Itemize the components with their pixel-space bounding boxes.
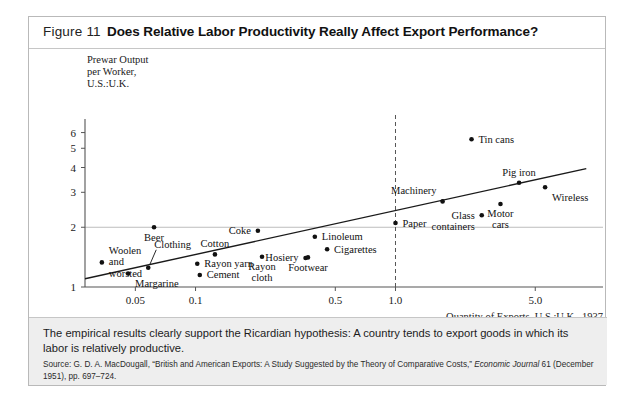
x-tick-label: 0.1 [189, 294, 203, 306]
data-point-label: Glass [451, 210, 474, 221]
trend-line [85, 169, 586, 279]
data-point-label: Tin cans [479, 134, 515, 145]
data-point [146, 265, 151, 270]
data-point [543, 185, 548, 190]
figure-source: Source: G. D. A. MacDougall, “British an… [43, 359, 595, 382]
y-axis-title: per Worker, [87, 66, 136, 77]
data-point-label: cars [492, 219, 509, 230]
figure-caption: The empirical results clearly support th… [43, 326, 591, 356]
data-point-label: Wireless [552, 192, 588, 203]
data-point-label: Linoleum [322, 231, 363, 242]
figure-header: Figure 11 Does Relative Labor Productivi… [29, 17, 605, 49]
x-tick-label: 1.0 [389, 294, 403, 306]
source-prefix: Source: G. D. A. MacDougall, “British an… [43, 360, 474, 369]
data-point-label: cloth [252, 272, 274, 283]
data-point [197, 273, 202, 278]
data-point [100, 260, 105, 265]
y-axis-title: U.S.:U.K. [87, 78, 129, 89]
y-tick-label: 5 [71, 142, 77, 154]
x-tick-label: 5.0 [528, 294, 542, 306]
x-tick-label: 0.05 [126, 294, 146, 306]
data-point-label: Rayon yarn [204, 258, 253, 269]
data-point [306, 255, 311, 260]
data-point-label: Paper [402, 218, 426, 229]
x-tick-label: 0.5 [328, 294, 342, 306]
data-point-label: Woolen [109, 245, 142, 256]
plot-svg: 1234560.050.10.51.05.0 WoolenandworstedM… [29, 49, 607, 317]
y-tick-label: 3 [71, 186, 77, 198]
data-point [152, 225, 157, 230]
data-point [479, 213, 484, 218]
data-point [256, 228, 261, 233]
data-point-label: Machinery [391, 185, 437, 196]
data-point-label: Cigarettes [334, 244, 377, 255]
data-point-label: worsted [109, 268, 143, 279]
data-point [393, 221, 398, 226]
data-point [498, 202, 503, 207]
data-point [325, 247, 330, 252]
data-point [195, 261, 200, 266]
y-axis-title: Prewar Output [87, 54, 149, 65]
y-tick-label: 2 [71, 221, 77, 233]
data-point-label: Margarine [135, 278, 179, 289]
data-point-label: Motor [487, 208, 514, 219]
caption-block: The empirical results clearly support th… [29, 317, 607, 385]
data-point-label: Pig iron [502, 167, 536, 178]
data-point-label: Clothing [154, 239, 192, 250]
source-journal: Economic Journal [474, 360, 539, 369]
scatter-plot: 1234560.050.10.51.05.0 WoolenandworstedM… [29, 49, 607, 317]
y-tick-label: 1 [71, 281, 77, 293]
data-point-label: Cement [207, 269, 240, 280]
data-points [100, 137, 548, 277]
data-point-label: and [109, 256, 125, 267]
data-point [469, 137, 474, 142]
figure-title: Does Relative Labor Productivity Really … [107, 24, 538, 39]
figure-container: Figure 11 Does Relative Labor Productivi… [28, 16, 606, 386]
data-point-label: Footwear [288, 262, 328, 273]
y-tick-label: 6 [71, 127, 77, 139]
data-point [440, 199, 445, 204]
figure-number: Figure 11 [43, 24, 101, 39]
data-point [517, 180, 522, 185]
data-point [313, 235, 318, 240]
data-point-label: Cotton [201, 238, 230, 249]
data-point-label: containers [432, 221, 475, 232]
data-point [260, 254, 265, 259]
data-point [213, 252, 218, 257]
data-point-label: Coke [229, 225, 252, 236]
data-point-labels: WoolenandworstedMargarineBeerClothingCot… [109, 134, 589, 290]
y-tick-label: 4 [71, 162, 77, 174]
